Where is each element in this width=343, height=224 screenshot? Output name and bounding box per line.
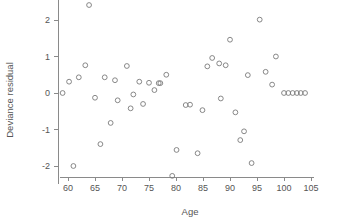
axes <box>58 0 314 184</box>
data-point <box>200 108 205 113</box>
data-point <box>93 95 98 100</box>
data-point <box>270 82 275 87</box>
data-point <box>210 56 215 61</box>
data-point <box>218 96 223 101</box>
plot-canvas: 6065707580859095100105 -2-1012 Age Devia… <box>0 0 343 224</box>
y-tick-label: -2 <box>42 161 50 171</box>
data-point <box>102 75 107 80</box>
y-axis-ticks: -2-1012 <box>42 15 58 171</box>
data-point <box>217 61 222 66</box>
data-point <box>98 142 103 147</box>
x-tick-label: 60 <box>63 183 73 193</box>
y-tick-label: 1 <box>45 52 50 62</box>
scatter-plot-figure: 6065707580859095100105 -2-1012 Age Devia… <box>0 0 343 224</box>
data-point <box>249 161 254 166</box>
x-tick-label: 75 <box>144 183 154 193</box>
data-point <box>164 72 169 77</box>
data-point <box>205 64 210 69</box>
data-point <box>263 69 268 74</box>
data-point <box>238 138 243 143</box>
x-tick-label: 85 <box>198 183 208 193</box>
data-points <box>60 3 307 179</box>
data-point <box>124 64 129 69</box>
x-tick-label: 90 <box>225 183 235 193</box>
x-tick-label: 80 <box>171 183 181 193</box>
data-point <box>71 164 76 169</box>
data-point <box>223 63 228 68</box>
y-tick-label: 2 <box>45 15 50 25</box>
y-tick-label: 0 <box>45 88 50 98</box>
x-tick-label: 70 <box>117 183 127 193</box>
x-tick-label: 105 <box>303 183 318 193</box>
data-point <box>83 63 88 68</box>
y-axis-title: Deviance residual <box>4 62 15 138</box>
x-axis-ticks: 6065707580859095100105 <box>63 177 319 193</box>
data-point <box>245 73 250 78</box>
data-point <box>113 78 118 83</box>
data-point <box>131 92 136 97</box>
x-tick-label: 95 <box>252 183 262 193</box>
x-axis-title: Age <box>182 206 199 217</box>
data-point <box>152 88 157 93</box>
data-point <box>257 17 262 22</box>
data-point <box>170 173 175 178</box>
data-point <box>195 151 200 156</box>
data-point <box>87 3 92 8</box>
x-tick-label: 65 <box>90 183 100 193</box>
data-point <box>228 37 233 42</box>
data-point <box>76 75 81 80</box>
y-tick-label: -1 <box>42 125 50 135</box>
data-point <box>233 110 238 115</box>
data-point <box>60 91 65 96</box>
data-point <box>242 129 247 134</box>
data-point <box>174 148 179 153</box>
data-point <box>108 121 113 126</box>
data-point <box>115 98 120 103</box>
data-point <box>147 80 152 85</box>
data-point <box>128 106 133 111</box>
data-point <box>141 102 146 107</box>
data-point <box>274 54 279 59</box>
data-point <box>67 79 72 84</box>
data-point <box>137 79 142 84</box>
x-tick-label: 100 <box>276 183 291 193</box>
